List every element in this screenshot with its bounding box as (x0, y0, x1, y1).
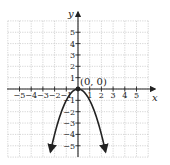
svg-text:−4: −4 (25, 91, 37, 100)
vertex-label: (0, 0) (80, 76, 107, 87)
svg-text:−5: −5 (63, 142, 75, 151)
svg-text:−3: −3 (63, 119, 75, 128)
x-axis-label: x (152, 92, 158, 103)
parabola-chart: −5−4−3−2−112345−5−4−3−2−112345 x y (0, 0… (0, 0, 170, 165)
svg-text:3: 3 (111, 91, 116, 100)
svg-text:4: 4 (122, 91, 127, 100)
svg-text:5: 5 (134, 91, 139, 100)
svg-text:−4: −4 (63, 130, 75, 139)
svg-text:5: 5 (70, 28, 75, 37)
vertex-point (76, 87, 81, 92)
svg-text:4: 4 (70, 40, 75, 49)
svg-text:−3: −3 (37, 91, 49, 100)
svg-text:3: 3 (70, 51, 75, 60)
svg-text:2: 2 (70, 62, 75, 71)
svg-text:1: 1 (70, 74, 75, 83)
svg-text:−2: −2 (49, 91, 61, 100)
svg-text:−5: −5 (14, 91, 26, 100)
svg-text:−2: −2 (63, 108, 75, 117)
y-axis-label: y (67, 8, 74, 19)
svg-text:2: 2 (99, 91, 104, 100)
